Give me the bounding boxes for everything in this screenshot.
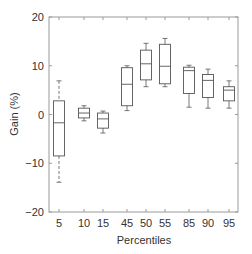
box-plot-chart: −20−1001020 51015455055859095 Gain (%) P… [0, 0, 252, 254]
x-tick-label: 95 [223, 217, 235, 229]
x-tick-label: 15 [97, 217, 109, 229]
y-tick-label: 0 [38, 109, 44, 121]
x-axis-label: Percentiles [117, 234, 172, 246]
y-tick-label: 20 [32, 11, 44, 23]
y-axis-label: Gain (%) [8, 92, 20, 135]
x-tick-label: 10 [78, 217, 90, 229]
x-tick-label: 50 [140, 217, 152, 229]
x-tick-label: 55 [159, 217, 171, 229]
x-tick-label: 85 [183, 217, 195, 229]
y-tick-label: −20 [25, 206, 44, 218]
y-tick-label: 10 [32, 60, 44, 72]
x-tick-label: 5 [56, 217, 62, 229]
x-tick-label: 90 [202, 217, 214, 229]
plot-area [49, 17, 238, 212]
x-tick-label: 45 [121, 217, 133, 229]
y-tick-label: −10 [25, 157, 44, 169]
